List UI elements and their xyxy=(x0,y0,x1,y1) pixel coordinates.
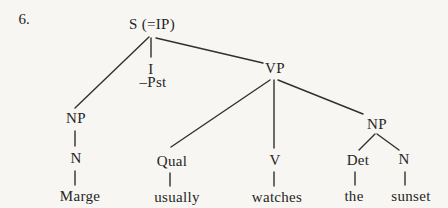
node-vp: VP xyxy=(265,61,285,76)
leaf-word-watches: watches xyxy=(252,190,302,205)
figure-item-number: 6. xyxy=(18,12,29,27)
edge-vp-qual xyxy=(171,80,270,147)
tree-edges xyxy=(0,0,448,208)
scanned-textbook-figure: 6. S (=IP) NP I –Pst VP N Marge Qual usu… xyxy=(0,0,448,208)
node-s: S (=IP) xyxy=(129,17,175,32)
node-np-object: NP xyxy=(367,117,387,132)
leaf-word-marge: Marge xyxy=(60,189,100,204)
node-v: V xyxy=(269,153,280,168)
node-det: Det xyxy=(347,153,370,168)
leaf-word-usually: usually xyxy=(154,190,199,205)
node-qual: Qual xyxy=(157,154,187,169)
leaf-word-sunset: sunset xyxy=(391,189,430,204)
leaf-word-the: the xyxy=(344,189,363,204)
node-np-subject: NP xyxy=(66,111,86,126)
edge-np-n-object xyxy=(377,134,399,150)
edge-np-det xyxy=(359,134,375,150)
node-n-subject: N xyxy=(70,151,81,166)
edge-s-np-subject xyxy=(75,37,149,108)
edge-s-vp xyxy=(156,38,263,63)
edge-vp-np-object xyxy=(278,80,363,114)
node-i-tense-feature: –Pst xyxy=(139,75,166,90)
node-n-object: N xyxy=(398,152,409,167)
